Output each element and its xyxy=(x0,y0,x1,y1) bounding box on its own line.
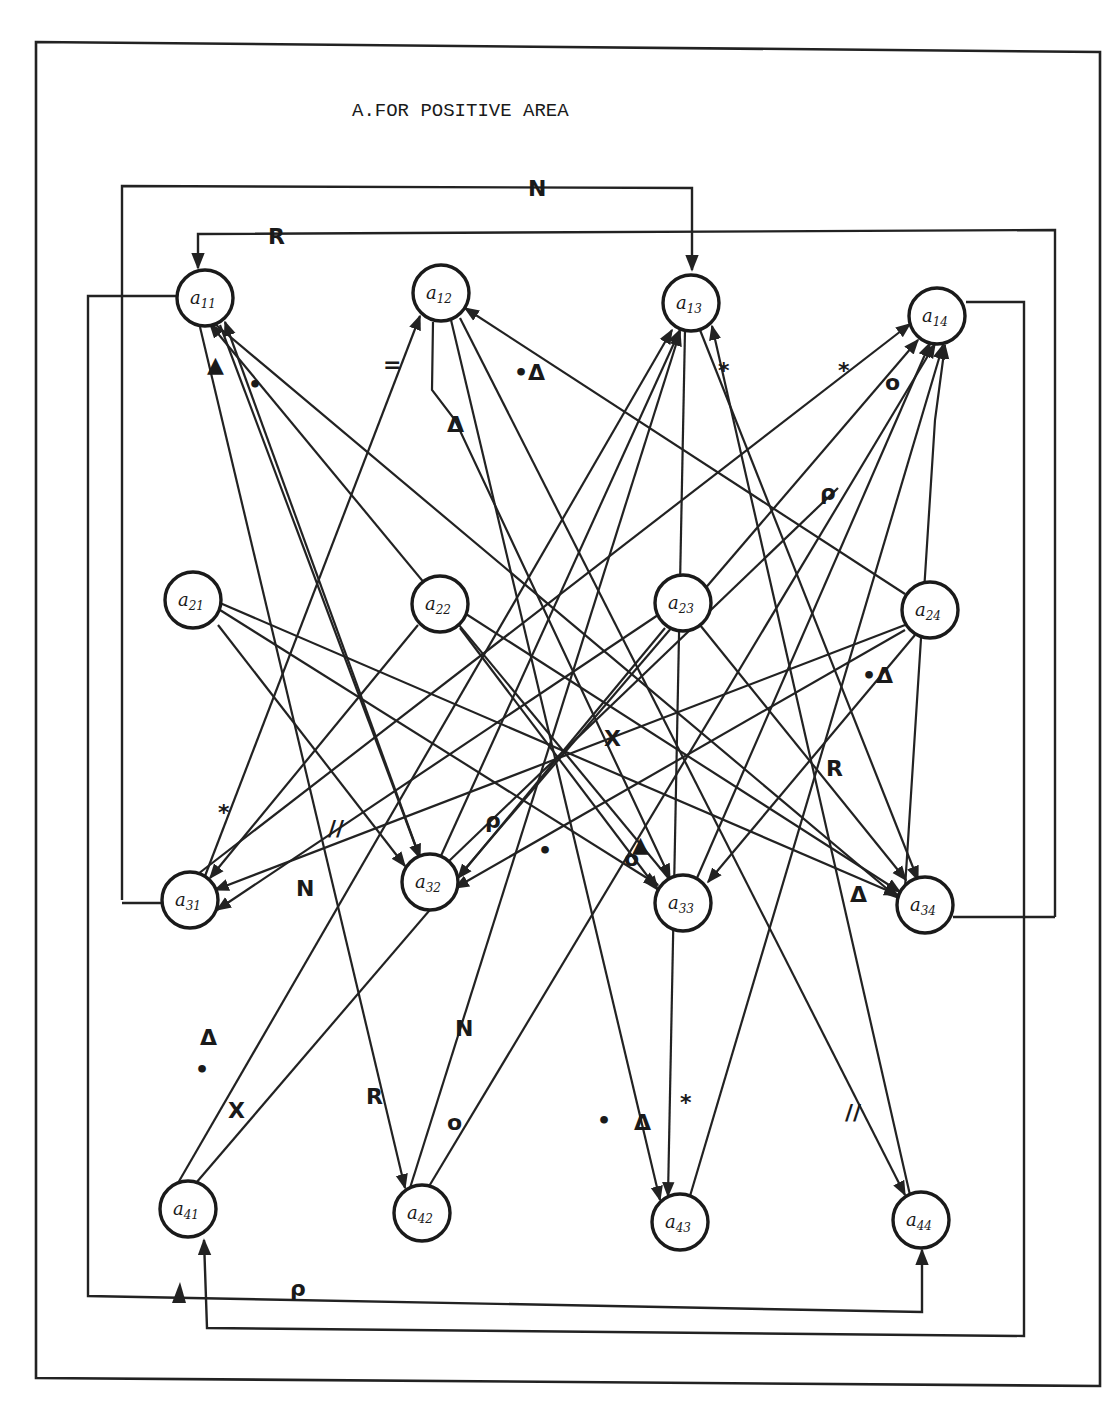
label-delta-a34: Δ xyxy=(850,882,867,907)
label-o-a33: o xyxy=(624,846,639,871)
label-dot-a41: • xyxy=(195,1057,209,1082)
label-star-a31: * xyxy=(218,800,230,825)
graph-diagram: N R ρ ρ ρ N // * = X R •Δ •Δ Δ * * o • ▲… xyxy=(0,0,1116,1428)
node-a21: a21 xyxy=(165,572,221,628)
label-n-a42: N xyxy=(455,1016,473,1041)
node-a42: a42 xyxy=(394,1185,450,1241)
label-dot-a43: • xyxy=(597,1108,611,1133)
node-a41: a41 xyxy=(160,1181,216,1237)
node-a23: a23 xyxy=(655,575,711,631)
label-delta-a41: Δ xyxy=(200,1025,217,1050)
node-a24: a24 xyxy=(902,582,958,638)
edges xyxy=(178,308,945,1200)
label-o-a42: o xyxy=(447,1110,462,1135)
node-a22: a22 xyxy=(412,576,468,632)
node-a13: a13 xyxy=(663,275,719,331)
label-star-a13: * xyxy=(718,358,730,383)
label-dot-delta-a12: •Δ xyxy=(514,360,545,385)
label-rho-a32: ρ xyxy=(485,808,501,833)
route-a14-right xyxy=(204,302,1024,1336)
node-a14: a14 xyxy=(909,288,965,344)
label-rho-mid: ρ xyxy=(820,480,836,505)
label-rho-bottom: ρ xyxy=(290,1276,306,1301)
route-a11-left xyxy=(88,296,922,1312)
node-a44: a44 xyxy=(893,1192,949,1248)
label-delta-a43: Δ xyxy=(634,1110,651,1135)
label-r-a42: R xyxy=(366,1084,383,1109)
node-a32: a32 xyxy=(402,854,458,910)
label-parallel-a44: // xyxy=(845,1100,862,1125)
label-star-a14: * xyxy=(838,358,850,383)
label-dot-a32: • xyxy=(538,838,552,863)
label-triangle-a11: ▲ xyxy=(207,352,224,377)
node-a33: a33 xyxy=(655,875,711,931)
label-dot-a11: • xyxy=(248,372,262,397)
label-x-mid: X xyxy=(604,726,621,751)
label-parallel-a31: // xyxy=(328,816,345,841)
label-r-a34: R xyxy=(826,756,843,781)
label-r-top: R xyxy=(268,224,285,249)
label-o-a14: o xyxy=(885,370,900,395)
label-equal-a12: = xyxy=(383,352,401,377)
label-n-top: N xyxy=(528,176,546,201)
node-a34: a34 xyxy=(897,877,953,933)
triangle-marker xyxy=(172,1282,186,1303)
edge-labels: N R ρ ρ ρ N // * = X R •Δ •Δ Δ * * o • ▲… xyxy=(195,176,900,1301)
node-a11: a11 xyxy=(177,270,233,326)
label-star-a43: * xyxy=(680,1090,692,1115)
node-a31: a31 xyxy=(162,872,218,928)
label-delta-a12: Δ xyxy=(447,412,464,437)
node-a43: a43 xyxy=(652,1194,708,1250)
label-n-a31: N xyxy=(296,876,314,901)
label-x-a41: X xyxy=(228,1098,245,1123)
label-dot-delta-a24: •Δ xyxy=(862,663,893,688)
node-a12: a12 xyxy=(413,265,469,321)
